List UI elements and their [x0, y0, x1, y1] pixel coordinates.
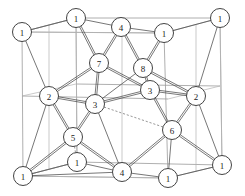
atom-a16-label-4[interactable]: 4: [113, 163, 132, 182]
lattice-svg: 114117823325611411: [0, 0, 245, 196]
atom-a5-label-1[interactable]: 1: [211, 9, 230, 28]
bond-a2-a3: [85, 20, 111, 25]
bond-a8-a1: [26, 41, 46, 87]
bond-a2-a6-0: [81, 26, 95, 54]
atom-circle-a14[interactable]: [14, 167, 33, 186]
bond-a13-a16-1: [129, 135, 164, 165]
bond-a14-a16: [32, 172, 112, 175]
bond-a12-a15: [75, 146, 76, 152]
atom-a12-label-5[interactable]: 5: [64, 128, 83, 147]
atom-a13-label-6[interactable]: 6: [163, 121, 182, 140]
atom-a15-label-1[interactable]: 1: [68, 153, 87, 172]
cell-edge-mid-horiz-top: [22, 32, 164, 33]
bond-a11-a18: [199, 105, 218, 156]
bond-a12-a14-0: [31, 144, 66, 171]
bond-a4-a7-1: [147, 41, 158, 60]
atom-a6-label-7[interactable]: 7: [90, 54, 109, 73]
bond-a8-a12-0: [55, 104, 69, 129]
atom-a11-label-2[interactable]: 2: [187, 87, 206, 106]
cell-edge-mid-horiz-bot: [23, 176, 168, 178]
bond-a9-a13: [104, 107, 163, 127]
bond-a2-a6-1: [80, 27, 94, 55]
atom-a14-label-1[interactable]: 1: [14, 167, 33, 186]
atom-a1-label-1[interactable]: 1: [13, 23, 32, 42]
atom-a7-label-8[interactable]: 8: [134, 59, 153, 78]
cell-edge-inner-vert-b: [220, 18, 222, 165]
atom-circle-a12[interactable]: [64, 128, 83, 147]
bond-a7-a9: [103, 74, 136, 99]
atom-circle-a11[interactable]: [187, 87, 206, 106]
bond-a8-a14: [26, 105, 46, 167]
atom-circle-a15[interactable]: [68, 153, 87, 172]
atom-circle-a3[interactable]: [112, 18, 131, 37]
bond-a6-a8-0: [57, 69, 91, 92]
atom-circle-a17[interactable]: [159, 169, 178, 188]
bond-a15-a16: [86, 164, 112, 170]
bond-a7-a10-0: [147, 77, 148, 81]
atom-circle-a10[interactable]: [141, 81, 160, 100]
bond-a13-a18-1: [179, 136, 213, 160]
atom-a3-label-4[interactable]: 4: [112, 18, 131, 37]
atom-circle-a5[interactable]: [211, 9, 230, 28]
atom-circle-a1[interactable]: [13, 23, 32, 42]
atom-circle-a16[interactable]: [113, 163, 132, 182]
bond-a3-a7-1: [125, 36, 138, 60]
bond-a9-a12-1: [78, 111, 89, 128]
bond-a12-a14-1: [30, 142, 65, 169]
bond-a9-a12-0: [79, 112, 90, 129]
atom-a8-label-2[interactable]: 2: [40, 87, 59, 106]
bond-a13-a18-0: [180, 135, 214, 159]
atom-circle-a13[interactable]: [163, 121, 182, 140]
lattice-diagram: 114117823325611411: [0, 0, 245, 196]
bond-a11-a5: [199, 27, 217, 87]
atom-circle-a8[interactable]: [40, 87, 59, 106]
atom-a18-label-1[interactable]: 1: [213, 156, 232, 175]
bond-a6-a8-1: [56, 68, 90, 91]
bond-a3-a6-1: [103, 35, 115, 55]
bond-a13-a16-0: [130, 137, 165, 167]
bond-a3-a7-0: [126, 35, 139, 59]
atom-circle-a4[interactable]: [155, 24, 174, 43]
atom-circle-a9[interactable]: [86, 95, 105, 114]
bond-a10-a13-1: [154, 99, 167, 122]
atom-a9-label-3[interactable]: 3: [86, 95, 105, 114]
bond-a16-a17: [131, 173, 158, 177]
bond-a10-a11-0: [160, 90, 187, 94]
bond-a3-a6-0: [105, 36, 117, 56]
atom-a2-label-1[interactable]: 1: [67, 9, 86, 28]
atom-circle-a7[interactable]: [134, 59, 153, 78]
bond-a9-a16: [99, 113, 119, 163]
atom-circle-a6[interactable]: [90, 54, 109, 73]
bond-a4-a5: [173, 20, 211, 30]
bond-a4-a7-0: [149, 42, 160, 61]
atom-circle-a18[interactable]: [213, 156, 232, 175]
bond-a17-a18: [177, 167, 213, 176]
atom-a17-label-1[interactable]: 1: [159, 169, 178, 188]
bond-a11-a13-0: [178, 104, 191, 122]
bond-a7-a10-1: [145, 77, 146, 81]
bond-a11-a13-1: [177, 103, 190, 121]
atom-circle-a2[interactable]: [67, 9, 86, 28]
bond-a3-a4: [130, 28, 154, 31]
atom-a4-label-1[interactable]: 1: [155, 24, 174, 43]
atom-a10-label-3[interactable]: 3: [141, 81, 160, 100]
bond-a8-a12-1: [53, 105, 67, 130]
bond-a10-a11-1: [159, 92, 186, 96]
